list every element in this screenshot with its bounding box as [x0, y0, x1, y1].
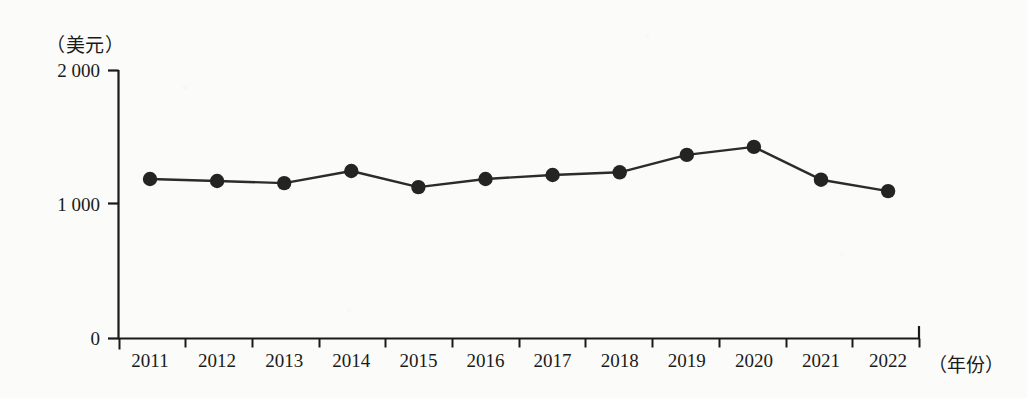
x-axis-title: （年份） [928, 350, 1004, 377]
data-point-marker [277, 176, 291, 190]
data-point-marker [143, 172, 157, 186]
data-point-marker [613, 165, 627, 179]
data-line [150, 147, 888, 191]
data-point-marker [545, 168, 559, 182]
data-point-marker [881, 184, 895, 198]
x-tick-label: 2016 [467, 350, 505, 372]
x-tick-label: 2017 [534, 350, 572, 372]
x-tick-label: 2014 [332, 350, 370, 372]
x-tick-label: 2013 [265, 350, 303, 372]
chart-figure: （美元） 2 0001 0000 20112012201320142015201… [0, 0, 1027, 398]
x-tick-label: 2018 [601, 350, 639, 372]
data-point-marker [478, 172, 492, 186]
x-tick-label: 2012 [198, 350, 236, 372]
x-tick-label: 2015 [399, 350, 437, 372]
x-tick-marks [120, 339, 920, 350]
data-point-marker [210, 174, 224, 188]
data-point-marker [680, 148, 694, 162]
x-tick-label: 2020 [735, 350, 773, 372]
x-tick-label: 2019 [668, 350, 706, 372]
data-point-marker [411, 180, 425, 194]
data-point-marker [814, 173, 828, 187]
y-tick-label: 1 000 [0, 194, 100, 216]
x-tick-label: 2021 [802, 350, 840, 372]
data-point-marker [344, 164, 358, 178]
data-point-marker [747, 140, 761, 154]
plot-area [0, 0, 1027, 398]
y-tick-label: 2 000 [0, 60, 100, 82]
y-tick-label: 0 [0, 328, 100, 350]
data-markers [143, 140, 896, 199]
x-tick-label: 2011 [131, 350, 168, 372]
x-tick-label: 2022 [869, 350, 907, 372]
